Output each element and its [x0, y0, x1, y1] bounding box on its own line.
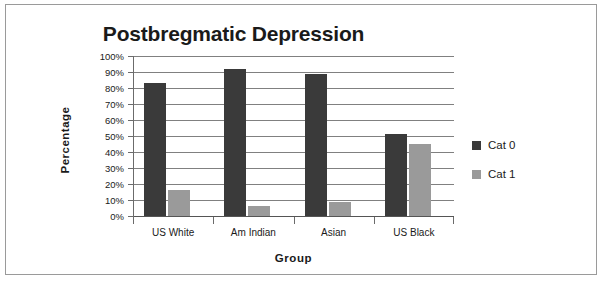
y-axis-tick-label: 70% [84, 99, 124, 110]
x-axis-tick-label: Am Indian [231, 227, 276, 238]
bar-cat-0-am-indian[interactable] [224, 69, 246, 216]
y-axis-title: Percentage [58, 90, 72, 190]
y-axis-tick [128, 88, 134, 89]
bar-cat-1-us-black[interactable] [409, 144, 431, 216]
chart-title: Postbregmatic Depression [6, 22, 461, 46]
legend-swatch-icon [472, 141, 481, 150]
bar-cat-1-us-white[interactable] [168, 190, 190, 216]
bar-cat-1-asian[interactable] [329, 202, 351, 216]
y-axis-tick-label: 100% [84, 51, 124, 62]
y-axis-tick [128, 120, 134, 121]
y-axis-tick-label: 60% [84, 115, 124, 126]
y-axis-tick [128, 216, 134, 217]
bar-cat-0-us-black[interactable] [385, 134, 407, 216]
legend-item-cat-1[interactable]: Cat 1 [472, 168, 582, 180]
bar-cat-1-am-indian[interactable] [248, 206, 270, 216]
x-axis-tick [133, 217, 134, 224]
gridline [133, 72, 454, 73]
bar-cat-0-asian[interactable] [305, 74, 327, 216]
y-axis-tick-label: 40% [84, 147, 124, 158]
chart-frame: Postbregmatic Depression Percentage 100%… [5, 4, 597, 275]
gridline [133, 120, 454, 121]
y-axis-tick [128, 168, 134, 169]
x-axis-tick-label: US White [152, 227, 194, 238]
gridline [133, 104, 454, 105]
y-axis-tick-label: 10% [84, 195, 124, 206]
plot-area [133, 56, 454, 216]
chart-legend: Cat 0Cat 1 [472, 139, 582, 197]
x-axis-tick [453, 217, 454, 224]
bar-cat-0-us-white[interactable] [144, 83, 166, 216]
legend-swatch-icon [472, 170, 481, 179]
y-axis-tick-label: 80% [84, 83, 124, 94]
x-axis-tick-labels: US WhiteAm IndianAsianUS Black [133, 227, 454, 243]
legend-label: Cat 1 [488, 168, 516, 180]
y-axis-tick-label: 0% [84, 211, 124, 222]
x-axis-title: Group [133, 252, 454, 264]
x-axis-tick-label: US Black [393, 227, 434, 238]
y-axis-tick [128, 184, 134, 185]
y-axis-tick [128, 200, 134, 201]
gridline [133, 88, 454, 89]
y-axis-tick-label: 30% [84, 163, 124, 174]
x-axis-ticks [133, 217, 454, 225]
gridline [133, 56, 454, 57]
y-axis-tick [128, 56, 134, 57]
y-axis-tick [128, 72, 134, 73]
x-axis-tick [213, 217, 214, 224]
y-axis-tick-labels: 100%90%80%70%60%50%40%30%20%10%0% [82, 56, 124, 217]
y-axis-tick-label: 50% [84, 131, 124, 142]
x-axis-tick-label: Asian [321, 227, 346, 238]
y-axis-tick [128, 152, 134, 153]
legend-label: Cat 0 [488, 139, 516, 151]
y-axis-tick [128, 136, 134, 137]
y-axis-tick-label: 20% [84, 179, 124, 190]
y-axis-tick-label: 90% [84, 67, 124, 78]
x-axis-tick [294, 217, 295, 224]
y-axis-tick [128, 104, 134, 105]
x-axis-tick [374, 217, 375, 224]
legend-item-cat-0[interactable]: Cat 0 [472, 139, 582, 151]
